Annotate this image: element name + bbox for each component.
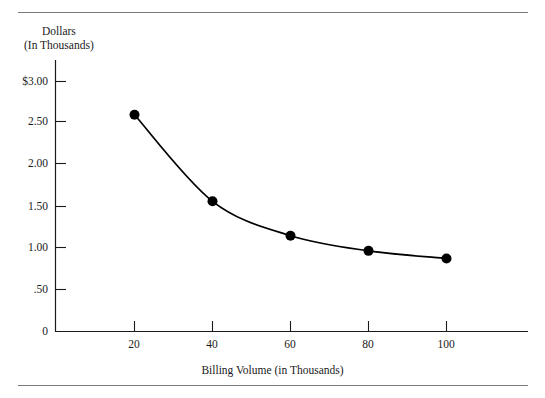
y-axis-ticks — [55, 82, 66, 290]
plot-area — [0, 0, 545, 398]
chart-figure: Dollars (In Thousands) Billing Volume (i… — [0, 0, 545, 398]
data-point-100 — [442, 253, 452, 263]
data-point-80 — [364, 246, 374, 256]
data-point-20 — [130, 110, 140, 120]
data-point-40 — [208, 196, 218, 206]
data-point-markers — [130, 110, 452, 264]
x-axis-ticks — [135, 321, 447, 331]
data-point-60 — [286, 231, 296, 241]
